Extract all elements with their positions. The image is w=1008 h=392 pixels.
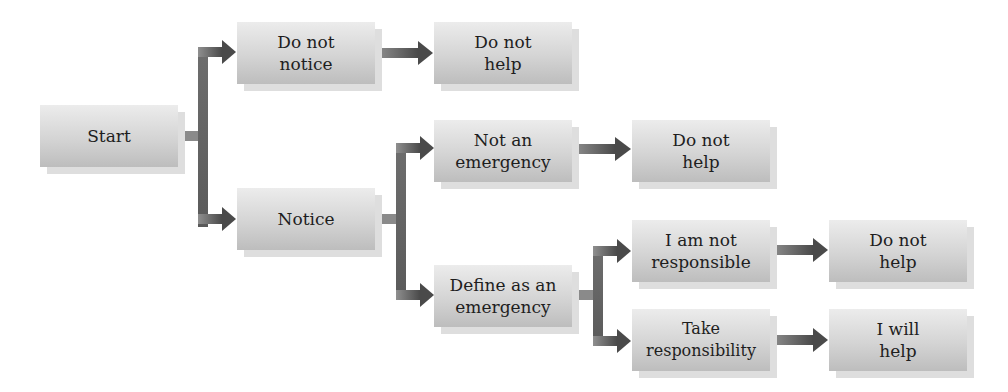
node-label: Take responsibility (634, 318, 768, 362)
branch-notice (375, 136, 434, 307)
node-label: Do not help (670, 129, 732, 173)
node-not-an-emergency: Not an emergency (434, 120, 572, 182)
node-do-not-help-2: Do not help (632, 120, 770, 182)
branch-start (177, 40, 236, 231)
arrow-do-not-notice-to-help (376, 41, 433, 65)
node-label: Do not notice (265, 31, 347, 75)
bystander-decision-flowchart: Start Do not notice Do not help Notice N… (0, 0, 1008, 392)
node-take-responsibility: Take responsibility (632, 309, 770, 371)
node-label: I am not responsible (642, 229, 760, 273)
node-i-will-help: I will help (829, 309, 967, 371)
node-label: Do not help (472, 31, 534, 75)
node-define-as-emergency: Define as an emergency (434, 265, 572, 327)
node-do-not-help-3: Do not help (829, 220, 967, 282)
node-notice: Notice (237, 188, 375, 250)
arrow-not-emergency-to-help (573, 137, 631, 161)
node-start: Start (40, 105, 178, 167)
arrow-not-responsible-to-help (771, 238, 828, 262)
branch-define-emergency (572, 239, 631, 353)
node-label: Do not help (867, 229, 929, 273)
node-i-am-not-responsible: I am not responsible (632, 220, 770, 282)
node-label: Notice (278, 208, 335, 230)
node-label: I will help (873, 318, 923, 362)
node-do-not-notice: Do not notice (237, 22, 375, 84)
node-do-not-help-1: Do not help (434, 22, 572, 84)
node-label: Start (87, 125, 131, 147)
node-label: Not an emergency (452, 129, 554, 173)
arrow-take-responsibility-to-help (771, 328, 828, 352)
node-label: Define as an emergency (438, 274, 568, 318)
